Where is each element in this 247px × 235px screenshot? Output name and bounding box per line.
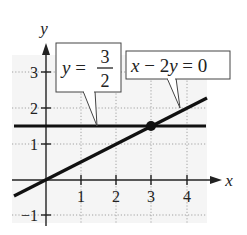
callout1-lhs: y =	[60, 57, 86, 78]
y-axis-arrow-icon	[42, 43, 50, 55]
y-tick-label: 3	[30, 64, 38, 81]
y-tick-label: 2	[30, 100, 38, 117]
y-tick-label: 1	[30, 136, 38, 153]
chart: 1 2 3 4 3 2 1 −1 x y y = 3 2 x	[0, 0, 247, 235]
y-tick-label: −1	[21, 207, 38, 224]
x-axis-label: x	[224, 171, 233, 190]
x-axis-arrow-icon	[210, 176, 222, 184]
x-tick-label: 1	[77, 188, 85, 205]
plot-svg: 1 2 3 4 3 2 1 −1 x y y = 3 2 x	[0, 0, 247, 235]
y-axis-label: y	[38, 19, 48, 38]
callout2-text: x − 2y = 0	[130, 55, 207, 76]
x-tick-label: 2	[112, 188, 120, 205]
intersection-point	[146, 121, 156, 131]
x-tick-label: 4	[183, 188, 191, 205]
x-tick-label: 3	[147, 188, 155, 205]
callout1-denominator: 2	[101, 71, 110, 91]
callout1-numerator: 3	[101, 47, 110, 67]
